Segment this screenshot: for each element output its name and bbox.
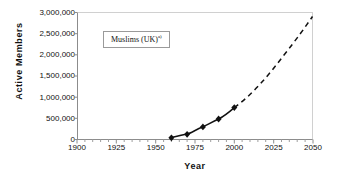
legend-label: Muslims (UK) [111, 35, 158, 44]
x-tick-label: 1950 [136, 143, 176, 152]
chart-container: Active Members 3,000,000 2,500,000 2,000… [0, 0, 340, 181]
y-tick-label: 1,000,000 [3, 94, 75, 102]
y-tick-label: 500,000 [3, 115, 75, 123]
y-tick-label: 1,500,000 [3, 72, 75, 80]
x-tick-label: 2025 [254, 143, 294, 152]
x-tick-label: 1925 [96, 143, 136, 152]
y-tick-label: 2,000,000 [3, 51, 75, 59]
x-tick-label: 1975 [175, 143, 215, 152]
y-axis-tick-labels: 3,000,000 2,500,000 2,000,000 1,500,000 … [0, 0, 75, 181]
legend-footnote-marker: a) [158, 34, 162, 39]
y-tick-label: 3,000,000 [3, 9, 75, 17]
y-tick-label: 2,500,000 [3, 30, 75, 38]
x-tick-label: 1900 [57, 143, 97, 152]
legend-box: Muslims (UK)a) [103, 31, 170, 48]
x-axis-title: Year [77, 161, 313, 171]
x-tick-label: 2000 [214, 143, 254, 152]
x-tick-label: 2050 [293, 143, 333, 152]
